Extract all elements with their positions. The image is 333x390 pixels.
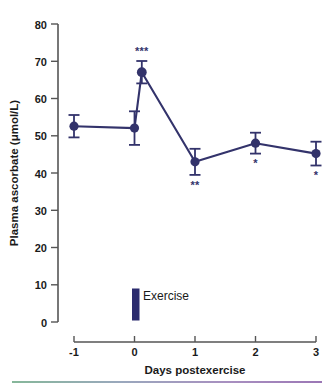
exercise-marker-group: Exercise [132,289,189,321]
significance-marker-day1: ** [190,179,200,191]
x-axis: -1 0 1 2 3 Days postexercise [69,336,319,376]
y-tick-label-60: 60 [35,93,47,105]
significance-marker-day2: * [253,157,258,169]
x-tick-label-2: 2 [252,346,258,358]
data-point-day-neg1 [69,122,78,131]
x-tick-label-neg1: -1 [69,346,79,358]
chart-figure: 80 70 60 50 40 30 20 10 0 Plasma ascorba… [0,0,333,390]
y-tick-label-50: 50 [35,130,47,142]
data-point-day2 [251,139,260,148]
y-axis: 80 70 60 50 40 30 20 10 0 Plasma ascorba… [8,19,58,329]
data-point-day0-post [137,67,147,77]
y-tick-label-10: 10 [35,279,47,291]
bottom-gradient-rule [12,381,322,383]
data-point-day1 [190,157,199,166]
data-series-plasma-ascorbate [69,61,322,175]
y-tick-label-80: 80 [35,19,47,31]
y-tick-label-30: 30 [35,205,47,217]
y-tick-label-40: 40 [35,168,47,180]
data-point-day0-pre [130,124,139,133]
x-tick-label-0: 0 [131,346,137,358]
exercise-label: Exercise [143,289,189,303]
y-tick-label-20: 20 [35,242,47,254]
x-axis-title: Days postexercise [144,364,245,376]
significance-annotations: *** ** * * [135,45,319,191]
data-point-day3 [311,149,320,158]
x-tick-label-1: 1 [192,346,198,358]
x-tick-label-3: 3 [313,346,319,358]
significance-marker-day0-post: *** [135,45,149,57]
significance-marker-day3: * [314,169,319,181]
y-tick-label-0: 0 [41,317,47,329]
ascorbate-line-chart: 80 70 60 50 40 30 20 10 0 Plasma ascorba… [0,0,333,390]
y-axis-title: Plasma ascorbate (μmol/L) [8,100,20,247]
y-tick-label-70: 70 [35,56,47,68]
exercise-bar [132,289,140,321]
